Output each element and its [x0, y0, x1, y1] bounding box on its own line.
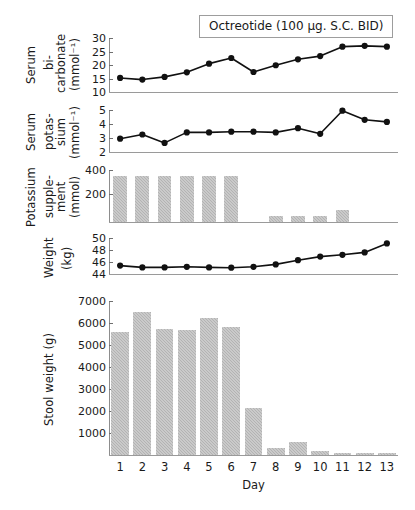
- xaxis-tick-label: 11: [335, 460, 350, 474]
- treatment-annotation: Octreotide (100 µg. S.C. BID): [199, 15, 393, 38]
- data-point: [273, 62, 279, 68]
- xaxis-baseline: [109, 274, 398, 275]
- bar: [111, 332, 129, 455]
- yaxis-ticklabels-supplement: 400 200: [78, 170, 106, 194]
- data-point: [384, 44, 390, 50]
- series-bicarbonate: [109, 38, 398, 92]
- data-point: [117, 136, 123, 142]
- xaxis-baseline: [109, 222, 398, 223]
- data-point: [339, 108, 345, 114]
- xaxis-tick-label: 3: [161, 460, 168, 474]
- data-point: [228, 55, 234, 61]
- bar: [202, 176, 216, 222]
- data-point: [384, 240, 390, 246]
- xaxis-baseline: [109, 92, 398, 93]
- panel-stool-weight: Stool weight (g) 7000 6000 5000 4000 300…: [0, 292, 415, 472]
- axis-label-serum: Serum: [26, 34, 38, 96]
- xaxis-tick-label: 1: [116, 460, 123, 474]
- yaxis-ticklabels-potassium: 5 4 3 2: [84, 110, 106, 152]
- data-point: [206, 264, 212, 270]
- bar: [289, 442, 307, 455]
- axis-label-potassium: potas- sium: [44, 103, 68, 161]
- plot-stool-weight: [109, 301, 398, 455]
- data-point: [206, 129, 212, 135]
- xaxis-tick-label: 7: [250, 460, 257, 474]
- bar: [158, 176, 172, 222]
- panel-potassium-supplement: Potassium supple- ment (mmol) 400 200: [0, 166, 415, 228]
- data-point: [384, 119, 390, 125]
- bar: [311, 451, 329, 455]
- axis-label-stool-weight: Stool weight (g): [44, 304, 56, 454]
- axis-label-bicarbonate-units: (mmol⁻¹): [70, 32, 82, 96]
- plot-potassium-supplement: [109, 170, 398, 222]
- data-point: [184, 129, 190, 135]
- data-point: [228, 129, 234, 135]
- xaxis-tick-label: 4: [183, 460, 190, 474]
- data-point: [139, 76, 145, 82]
- axis-label-weight-units: (kg): [62, 239, 74, 277]
- data-point: [184, 264, 190, 270]
- data-point: [339, 252, 345, 258]
- axis-label-serum-2: Serum: [26, 105, 38, 159]
- bar: [313, 216, 327, 222]
- data-point: [161, 140, 167, 146]
- data-point: [117, 263, 123, 269]
- bar: [336, 210, 350, 222]
- plot-weight: [109, 238, 398, 274]
- bar: [224, 176, 238, 222]
- data-point: [295, 125, 301, 131]
- data-point: [184, 69, 190, 75]
- data-point: [295, 257, 301, 263]
- axis-label-potassium-units: (mmol⁻¹): [70, 103, 82, 161]
- xaxis-tick-label: 6: [228, 460, 235, 474]
- xaxis-title: Day: [109, 478, 398, 492]
- axis-label-potassium-supp: Potassium: [26, 166, 38, 228]
- series-potassium: [109, 110, 398, 152]
- yaxis-ticklabels-stool: 7000 6000 5000 4000 3000 2000 1000: [66, 301, 106, 433]
- data-point: [339, 44, 345, 50]
- data-point: [295, 56, 301, 62]
- data-point: [250, 69, 256, 75]
- bar: [135, 176, 149, 222]
- data-point: [206, 61, 212, 67]
- data-point: [362, 117, 368, 123]
- axis-label-supplement: supple- ment: [44, 168, 68, 226]
- data-point: [362, 43, 368, 49]
- bar: [113, 176, 127, 222]
- data-point: [250, 264, 256, 270]
- panel-bicarbonate: Serum bi- carbonate (mmol⁻¹) 30 25 20 15…: [0, 26, 415, 98]
- bar: [267, 448, 285, 455]
- bar: [180, 176, 194, 222]
- xaxis-day-labels: 12345678910111213: [109, 460, 398, 476]
- bar: [222, 327, 240, 455]
- yaxis-ticklabels-bicarbonate: 30 25 20 15 10: [84, 38, 106, 92]
- data-point: [161, 264, 167, 270]
- bar: [356, 453, 374, 455]
- data-point: [317, 53, 323, 59]
- panel-potassium: Serum potas- sium (mmol⁻¹) 5 4 3 2: [0, 103, 415, 161]
- figure-root: Serum bi- carbonate (mmol⁻¹) 30 25 20 15…: [0, 0, 415, 510]
- bar: [133, 312, 151, 455]
- bar: [245, 408, 263, 455]
- panel-weight: Weight (kg) 50 48 46 44: [0, 233, 415, 283]
- xaxis-baseline: [109, 455, 398, 456]
- bar: [334, 453, 352, 455]
- data-point: [117, 75, 123, 81]
- data-point: [273, 261, 279, 267]
- data-point: [250, 129, 256, 135]
- xaxis-baseline: [109, 152, 398, 153]
- bar: [269, 216, 283, 222]
- data-point: [317, 254, 323, 260]
- bar: [200, 318, 218, 456]
- data-point: [317, 131, 323, 137]
- data-point: [161, 74, 167, 80]
- xaxis-tick-label: 9: [294, 460, 301, 474]
- bar: [156, 329, 174, 456]
- data-point: [228, 265, 234, 271]
- xaxis-tick-label: 13: [380, 460, 395, 474]
- series-weight: [109, 238, 398, 274]
- data-point: [362, 249, 368, 255]
- bar: [291, 216, 305, 222]
- data-point: [139, 264, 145, 270]
- bar: [378, 453, 396, 455]
